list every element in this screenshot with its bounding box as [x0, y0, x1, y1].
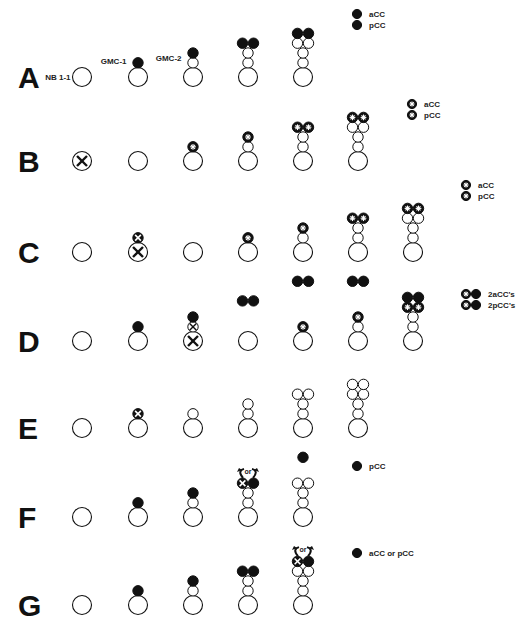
row-label: F [18, 501, 36, 534]
open-cell-icon [243, 142, 253, 152]
row-e: E [18, 379, 369, 445]
neuroblast-cell-icon [184, 243, 203, 262]
neuroblast-cell-icon [184, 508, 203, 527]
stage-2 [129, 152, 148, 171]
legend: pCC [352, 461, 385, 471]
neuroblast-cell-icon [294, 152, 313, 171]
open-cell-icon [408, 322, 418, 332]
row-g: GoraCC or pCC [18, 546, 414, 622]
neuroblast-cell-icon [349, 243, 368, 262]
neuroblast-cell-icon [294, 508, 313, 527]
filled-cell-icon [237, 38, 247, 48]
open-cell-icon [298, 58, 308, 68]
open-cell-icon [292, 478, 302, 488]
row-a: ANB 1-1GMC-1GMC-2aCCpCC [18, 9, 386, 94]
open-cell-icon [358, 389, 368, 399]
stage-4 [239, 399, 258, 438]
open-cell-icon [188, 409, 198, 419]
filled-cell-icon [352, 461, 361, 470]
row-label: E [18, 412, 38, 445]
open-cell-icon [292, 566, 302, 576]
neuroblast-cell-icon [129, 68, 148, 87]
stage-5: or [292, 546, 314, 614]
filled-cell-icon [248, 566, 258, 576]
neuroblast-cell-icon [73, 243, 92, 262]
open-cell-icon [303, 478, 313, 488]
neuroblast-cell-icon [239, 419, 258, 438]
stage-1 [73, 508, 92, 527]
neuroblast-cell-icon [239, 68, 258, 87]
open-cell-icon [347, 122, 357, 132]
stage-4 [237, 296, 258, 351]
filled-cell-icon [358, 276, 368, 286]
filled-cell-icon [298, 452, 308, 462]
stage-label: GMC-2 [156, 54, 182, 63]
stage-4 [237, 38, 258, 87]
neuroblast-cell-icon [294, 332, 313, 351]
open-cell-icon [408, 312, 418, 322]
open-cell-icon [353, 322, 363, 332]
row-label: G [18, 589, 41, 622]
stage-5 [292, 276, 313, 350]
neuroblast-cell-icon [349, 419, 368, 438]
neuroblast-cell-icon [239, 332, 258, 351]
open-cell-icon [298, 48, 308, 58]
neuroblast-cell-icon [129, 419, 148, 438]
stage-6 [347, 276, 368, 350]
legend: 2aCC's2pCC's [461, 289, 515, 310]
stage-7 [402, 203, 423, 261]
stage-2 [129, 409, 148, 438]
stage-5 [294, 223, 313, 262]
filled-cell-icon [303, 28, 313, 38]
row-b: BaCCpCC [18, 99, 441, 178]
row-label: D [18, 325, 40, 358]
open-cell-icon [358, 122, 368, 132]
open-cell-icon [298, 488, 308, 498]
filled-cell-icon [471, 289, 480, 298]
stage-4: or [237, 468, 259, 527]
filled-cell-icon [248, 478, 258, 488]
neuroblast-cell-icon [239, 152, 258, 171]
open-cell-icon [188, 498, 198, 508]
legend: aCCpCC [407, 99, 440, 120]
open-cell-icon [353, 409, 363, 419]
open-cell-icon [292, 38, 302, 48]
open-cell-icon [303, 566, 313, 576]
filled-cell-icon [133, 58, 143, 68]
legend: aCCpCC [352, 9, 385, 30]
filled-cell-icon [292, 276, 302, 286]
stage-3 [184, 142, 203, 171]
open-cell-icon [188, 586, 198, 596]
row-f: ForpCC [18, 452, 386, 534]
stage-6 [347, 112, 368, 170]
filled-cell-icon [188, 488, 198, 498]
stage-2 [129, 322, 148, 351]
neuroblast-cell-icon [294, 243, 313, 262]
open-cell-icon [243, 586, 253, 596]
legend: aCCpCC [461, 180, 494, 201]
stage-4 [239, 233, 258, 262]
stage-2 [129, 233, 148, 262]
legend-label: aCC [369, 10, 385, 19]
or-label: or [300, 546, 307, 553]
filled-cell-icon [471, 300, 480, 309]
neuroblast-cell-icon [129, 596, 148, 615]
stage-6 [347, 213, 368, 262]
neuroblast-cell-icon [294, 68, 313, 87]
open-cell-icon [303, 389, 313, 399]
open-cell-icon [298, 142, 308, 152]
neuroblast-cell-icon [349, 152, 368, 171]
or-label: or [245, 468, 252, 475]
neuroblast-cell-icon [73, 508, 92, 527]
stage-1 [73, 596, 92, 615]
legend-label: pCC [424, 111, 441, 120]
neuroblast-cell-icon [73, 68, 92, 87]
legend: aCC or pCC [352, 548, 414, 558]
filled-cell-icon [352, 20, 361, 29]
legend-label: pCC [478, 192, 495, 201]
filled-cell-icon [248, 38, 258, 48]
filled-cell-icon [188, 48, 198, 58]
neuroblast-cell-icon [184, 419, 203, 438]
open-cell-icon [347, 379, 357, 389]
open-cell-icon [353, 142, 363, 152]
